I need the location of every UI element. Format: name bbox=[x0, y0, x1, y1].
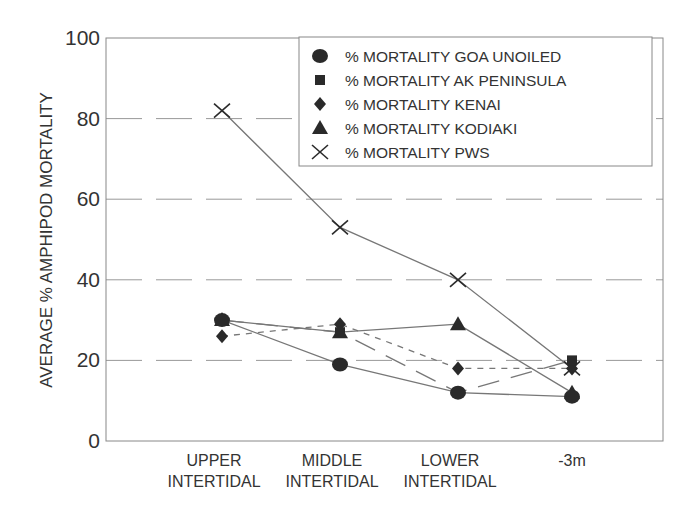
diamond-marker bbox=[216, 329, 228, 343]
x-category-label: LOWER bbox=[421, 452, 480, 469]
y-tick-label: 80 bbox=[77, 107, 100, 130]
circle-marker bbox=[332, 357, 348, 371]
circle-marker bbox=[312, 49, 328, 63]
circle-marker bbox=[214, 313, 230, 327]
triangle-marker bbox=[450, 316, 466, 330]
diamond-marker bbox=[452, 361, 464, 375]
x-category-label: MIDDLE bbox=[302, 452, 362, 469]
x-axis-category-labels: UPPERINTERTIDALMIDDLEINTERTIDALLOWERINTE… bbox=[167, 452, 585, 490]
circle-marker bbox=[450, 386, 466, 400]
line-chart: 020406080100 UPPERINTERTIDALMIDDLEINTERT… bbox=[0, 0, 691, 509]
legend-item-label: % MORTALITY GOA UNOILED bbox=[345, 48, 561, 65]
x-category-label: INTERTIDAL bbox=[403, 473, 496, 490]
square-marker bbox=[315, 75, 325, 85]
y-tick-label: 60 bbox=[77, 187, 100, 210]
x-category-label: UPPER bbox=[186, 452, 241, 469]
y-tick-label: 20 bbox=[77, 348, 100, 371]
y-tick-label: 100 bbox=[65, 26, 100, 49]
legend-item-label: % MORTALITY KODIAKI bbox=[345, 120, 517, 137]
legend-item-label: % MORTALITY KENAI bbox=[345, 96, 501, 113]
square-marker bbox=[335, 327, 345, 337]
x-category-label: -3m bbox=[558, 452, 586, 469]
y-axis-title: AVERAGE % AMPHIPOD MORTALITY bbox=[37, 92, 56, 388]
y-tick-label: 0 bbox=[88, 429, 100, 452]
circle-marker bbox=[564, 390, 580, 404]
x-category-label: INTERTIDAL bbox=[285, 473, 378, 490]
series--mortality-goa-unoiled bbox=[222, 320, 572, 397]
series-line bbox=[222, 320, 572, 397]
y-tick-label: 40 bbox=[77, 268, 100, 291]
x-category-label: INTERTIDAL bbox=[167, 473, 260, 490]
legend: % MORTALITY GOA UNOILED% MORTALITY AK PE… bbox=[299, 37, 652, 166]
square-marker bbox=[567, 355, 577, 365]
legend-item-label: % MORTALITY AK PENINSULA bbox=[345, 72, 567, 89]
legend-item-label: % MORTALITY PWS bbox=[345, 144, 490, 161]
y-axis-ticks: 020406080100 bbox=[65, 26, 100, 452]
